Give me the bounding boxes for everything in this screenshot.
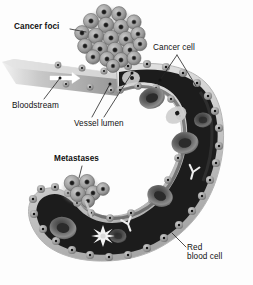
label-cancer-foci: Cancer foci <box>14 22 59 31</box>
label-cancer-cell: Cancer cell <box>153 43 195 52</box>
label-metastases: Metastases <box>54 154 99 163</box>
label-vessel-lumen: Vessel lumen <box>74 119 124 128</box>
metastasis-figure: Cancer foci Cancer cell Bloodstream Vess… <box>0 0 253 285</box>
cancer-foci-cluster <box>75 4 147 72</box>
label-red-blood-cell: Red blood cell <box>187 243 222 262</box>
label-bloodstream: Bloodstream <box>12 101 59 110</box>
